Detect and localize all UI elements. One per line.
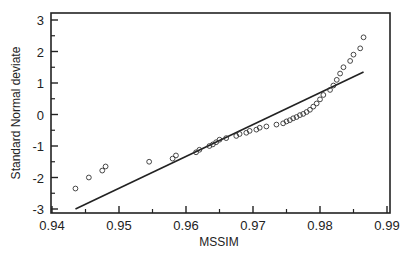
fit-line-segment — [75, 72, 363, 209]
y-tick-label: 3 — [37, 13, 44, 28]
data-point-circle — [73, 186, 78, 191]
x-tick-label: 0.99 — [374, 218, 399, 233]
y-tick-label: -1 — [32, 139, 44, 154]
x-tick-label: 0.95 — [106, 218, 131, 233]
data-point-circle — [321, 93, 326, 98]
x-axis-tick-labels: 0.940.950.960.970.980.99 — [39, 218, 399, 233]
data-point-circle — [361, 35, 366, 40]
data-point-circle — [274, 122, 279, 127]
data-point-circle — [147, 159, 152, 164]
data-points — [73, 35, 366, 191]
data-point-circle — [338, 71, 343, 76]
data-point-circle — [86, 175, 91, 180]
y-tick-label: 0 — [37, 108, 44, 123]
y-tick-label: 2 — [37, 45, 44, 60]
fitted-line — [75, 72, 363, 209]
data-point-circle — [351, 52, 356, 57]
y-axis-label: Standard Normal deviate — [9, 46, 23, 179]
plot-frame — [51, 13, 390, 213]
data-point-circle — [348, 59, 353, 64]
data-point-circle — [358, 46, 363, 51]
data-point-circle — [318, 97, 323, 102]
data-point-circle — [341, 65, 346, 70]
y-tick-label: 1 — [37, 76, 44, 91]
x-tick-label: 0.94 — [39, 218, 64, 233]
data-point-circle — [334, 77, 339, 82]
x-tick-label: 0.96 — [173, 218, 198, 233]
x-tick-label: 0.97 — [240, 218, 265, 233]
qq-plot: 0.940.950.960.970.980.99 -3-2-10123 MSSI… — [0, 0, 407, 257]
data-point-circle — [100, 168, 105, 173]
y-axis-tick-labels: -3-2-10123 — [32, 13, 44, 217]
y-axis-ticks — [51, 20, 58, 209]
x-tick-label: 0.98 — [307, 218, 332, 233]
y-tick-label: -3 — [32, 202, 44, 217]
data-point-circle — [264, 124, 269, 129]
y-tick-label: -2 — [32, 171, 44, 186]
data-point-circle — [103, 164, 108, 169]
x-axis-label: MSSIM — [199, 235, 238, 249]
data-point-circle — [174, 153, 179, 158]
data-point-circle — [314, 101, 319, 106]
x-axis-ticks — [52, 206, 387, 213]
